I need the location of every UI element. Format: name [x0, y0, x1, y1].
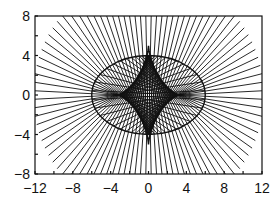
y-axis-tick-labels: −8−4048 [14, 8, 30, 182]
x-tick-label: −8 [65, 180, 81, 196]
y-tick-label: 0 [22, 87, 30, 103]
y-tick-label: 8 [22, 8, 30, 24]
x-tick-label: −12 [23, 180, 47, 196]
y-tick-label: 4 [22, 48, 30, 64]
y-tick-label: −8 [14, 166, 30, 182]
y-tick-label: −4 [14, 127, 30, 143]
axis-ticks [35, 16, 262, 174]
x-tick-label: 12 [254, 180, 270, 196]
ellipse-normals-chart: −12−8−404812 −8−4048 [0, 0, 279, 204]
x-axis-tick-labels: −12−8−404812 [23, 180, 270, 196]
x-tick-label: 4 [182, 180, 190, 196]
x-tick-label: −4 [103, 180, 119, 196]
plot-frame [35, 16, 262, 174]
x-tick-label: 0 [145, 180, 153, 196]
x-tick-label: 8 [220, 180, 228, 196]
